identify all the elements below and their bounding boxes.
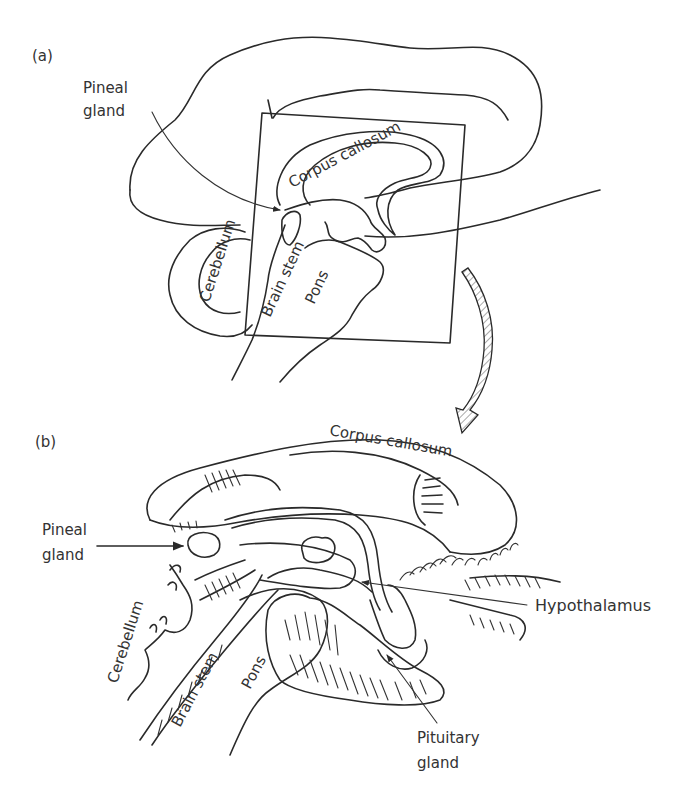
pineal-body-b [188,533,220,558]
brain-diagram: (a) Pineal gland Corpus callosum [0,0,678,799]
pituitary-gland-label-line2: gland [417,754,459,772]
commissure-outline [170,475,280,520]
panel-b: (b) [35,421,651,772]
cerebellum-text-b: Cerebellum [104,598,148,685]
corpus-callosum-label-a: Corpus callosum [285,117,403,191]
corpus-callosum-outer-b [147,440,516,554]
pons-label-a: Pons [301,267,332,307]
peduncle-hatching-b [205,573,240,600]
ventricle-lower-line [150,514,450,552]
pons-label-b: Pons [238,652,270,692]
third-ventricle [240,543,355,588]
frame-tick [268,100,272,118]
hypothalamus-label: Hypothalamus [535,596,651,615]
corpus-callosum-label-b: Corpus callosum [328,421,454,460]
sphenoid-outline-b [266,594,444,705]
brain-stem-label-a: Brain stem [257,238,308,320]
thalamus-oval [302,537,335,562]
corpus-callosum-text-b: Corpus callosum [328,421,454,460]
frontal-hatching-b2 [465,575,540,634]
pituitary-body-b [378,640,427,669]
pineal-gland-label-b-line2: gland [42,546,84,564]
pituitary-gland-label-line1: Pituitary [417,729,480,747]
panel-a-label: (a) [32,47,53,65]
brain-stem-text-a: Brain stem [257,238,308,320]
panel-a: (a) Pineal gland Corpus callosum [32,37,600,433]
panel-b-label: (b) [35,433,56,451]
cerebellum-folia [150,565,180,632]
transition-arrow [456,268,493,433]
corpus-callosum-text-a: Corpus callosum [285,117,403,191]
cerebellum-text-a: Cerebellum [196,217,240,304]
pineal-gland-label-a-line1: Pineal [83,79,128,97]
pineal-gland-label-b-line1: Pineal [42,521,87,539]
frontal-hatching-b [400,543,518,580]
cerebellum-label-b: Cerebellum [104,598,148,685]
sphenoid-hatching-b [285,612,426,700]
pons-text-b: Pons [238,652,270,692]
commissure-hatching [172,470,240,532]
brain-lower-curve [365,190,600,237]
pineal-gland-label-a-line2: gland [83,102,125,120]
pons-text-a: Pons [301,267,332,307]
septum-hatch-b [414,475,443,525]
peduncle-band-b [195,560,255,600]
cerebellum-label-a: Cerebellum [196,217,240,304]
